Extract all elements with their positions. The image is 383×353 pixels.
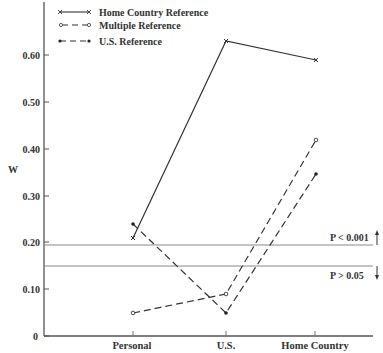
series-multiple-reference bbox=[131, 138, 318, 315]
arrow-down-icon bbox=[375, 266, 379, 280]
y-ticks bbox=[44, 55, 49, 336]
y-tick-1: 0.10 bbox=[23, 284, 41, 295]
y-axis-label: W bbox=[8, 164, 18, 175]
x-category-home-country: Home Country bbox=[281, 340, 349, 351]
reference-upper: P < 0.001 bbox=[330, 230, 379, 245]
reference-label-upper: P < 0.001 bbox=[330, 232, 369, 243]
x-ticks bbox=[133, 331, 315, 336]
y-tick-labels: 0 0.10 0.20 0.30 0.40 0.50 0.60 bbox=[23, 50, 41, 342]
legend-item-us-reference: U.S. Reference bbox=[58, 36, 162, 47]
legend-label-multiple-reference: Multiple Reference bbox=[99, 20, 181, 31]
y-tick-4: 0.40 bbox=[23, 144, 41, 155]
legend-item-home-country-reference: Home Country Reference bbox=[58, 7, 209, 18]
arrow-up-icon bbox=[375, 230, 379, 245]
x-category-us: U.S. bbox=[217, 340, 236, 351]
legend-item-multiple-reference: Multiple Reference bbox=[59, 20, 181, 31]
legend-label-us-reference: U.S. Reference bbox=[99, 36, 162, 47]
legend-label-home-country-reference: Home Country Reference bbox=[99, 7, 209, 18]
y-tick-3: 0.30 bbox=[23, 191, 41, 202]
y-tick-2: 0.20 bbox=[23, 237, 41, 248]
x-category-personal: Personal bbox=[112, 340, 151, 351]
legend: Home Country Reference Multiple Referenc… bbox=[58, 7, 209, 47]
chart-canvas: 0 0.10 0.20 0.30 0.40 0.50 0.60 W Person… bbox=[0, 0, 383, 353]
series-home-country-reference bbox=[131, 39, 318, 240]
y-tick-6: 0.60 bbox=[23, 50, 41, 61]
y-tick-5: 0.50 bbox=[23, 97, 41, 108]
open-circle-marker-icon bbox=[131, 138, 318, 315]
reference-lower: P > 0.05 bbox=[330, 266, 379, 281]
x-marker-icon bbox=[131, 39, 318, 240]
y-tick-0: 0 bbox=[33, 331, 38, 342]
reference-label-lower: P > 0.05 bbox=[330, 270, 364, 281]
